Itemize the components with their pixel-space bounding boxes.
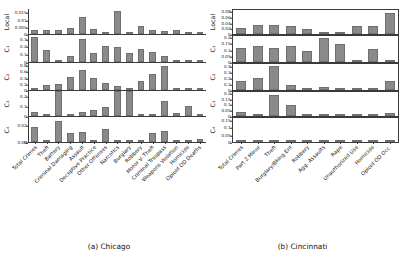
plot-area-achicago-1	[28, 35, 206, 63]
bar	[55, 30, 62, 34]
bar	[236, 112, 246, 116]
bar	[335, 32, 345, 34]
bar-slot	[171, 35, 183, 62]
y-axis-label-bcincinnati-2: C₂	[206, 63, 217, 91]
bar-group	[233, 92, 398, 116]
bar-slot	[266, 92, 283, 116]
y-axis-label-text: C₁	[208, 45, 215, 52]
subplot-achicago-Local: Local00.0050.010.015	[0, 9, 206, 35]
y-axis-label-achicago-3: C₃	[0, 91, 11, 117]
bar-slot	[250, 118, 267, 142]
bar	[55, 91, 62, 116]
y-axis-label-bcincinnati-4: C₄	[206, 117, 217, 143]
bar-group	[29, 117, 206, 142]
bar-slot	[64, 117, 76, 142]
bar	[102, 46, 109, 62]
bar	[79, 17, 86, 34]
bar-slot	[88, 35, 100, 62]
y-tick-labels-bcincinnati-3: 00.050.10.150.2	[217, 91, 232, 117]
y-tick-labels-achicago-4: 00.000.02	[11, 117, 28, 143]
bar-slot	[147, 117, 159, 142]
bar-slot	[382, 92, 399, 116]
bar	[319, 87, 329, 90]
bar-slot	[283, 10, 300, 34]
y-tick-label: 0.05	[221, 109, 230, 113]
bar	[352, 26, 362, 34]
bar-slot	[100, 35, 112, 62]
bar	[319, 38, 329, 62]
bar-slot	[349, 118, 366, 142]
bar-slot	[233, 118, 250, 142]
bar	[55, 60, 62, 62]
bar-slot	[100, 91, 112, 116]
bar	[185, 88, 192, 90]
bar-slot	[123, 117, 135, 142]
bar-slot	[41, 91, 53, 116]
category-label-text: Total Crimes	[11, 144, 38, 171]
bar-slot	[53, 63, 65, 90]
bar-slot	[365, 64, 382, 90]
bar	[335, 114, 345, 116]
bar-slot	[135, 63, 147, 90]
bar	[302, 29, 312, 34]
bar-slot	[76, 9, 88, 34]
bar-slot	[182, 91, 194, 116]
plot-area-achicago-3	[28, 91, 206, 117]
bar-slot	[76, 117, 88, 142]
bar	[67, 28, 74, 34]
bar-slot	[171, 63, 183, 90]
bar-slot	[100, 117, 112, 142]
y-axis-label-achicago-1: C₁	[0, 35, 11, 63]
bar	[286, 46, 296, 62]
bar-group	[233, 36, 398, 62]
bar-slot	[266, 10, 283, 34]
bar-slot	[135, 9, 147, 34]
bar	[102, 107, 109, 116]
bar-slot	[182, 117, 194, 142]
bar	[67, 133, 74, 142]
bar	[114, 47, 121, 62]
bar-slot	[112, 63, 124, 90]
bar-group	[29, 63, 206, 90]
bar-slot	[266, 118, 283, 142]
bar	[253, 114, 263, 116]
bar-slot	[41, 117, 53, 142]
bar-slot	[100, 63, 112, 90]
bar	[185, 106, 192, 116]
bar	[114, 91, 121, 116]
y-axis-label-text: C₄	[2, 126, 9, 133]
bar-slot	[159, 63, 171, 90]
bar	[197, 32, 204, 34]
bar-slot	[332, 10, 349, 34]
bar	[302, 51, 312, 62]
bar-slot	[250, 64, 267, 90]
bar-slot	[349, 36, 366, 62]
bar-slot	[182, 63, 194, 90]
bar	[126, 32, 133, 34]
bar-slot	[316, 64, 333, 90]
y-tick-label: 0.15	[221, 42, 230, 46]
bar	[197, 60, 204, 62]
subplot-bcincinnati-C: C₃00.050.10.150.2	[206, 91, 399, 117]
subplot-achicago-C: C₄00.000.02	[0, 117, 206, 143]
x-axis-category-labels-bcincinnati: Total CrimesPart 2 MinorTheftBurglary/Bk…	[206, 143, 399, 201]
bar-slot	[53, 35, 65, 62]
bar	[67, 114, 74, 116]
bar	[102, 129, 109, 142]
bar-slot	[76, 63, 88, 90]
y-tick-label: 0.015	[15, 11, 27, 15]
y-tick-labels-bcincinnati-0: 00.020.040.060.08	[217, 9, 232, 35]
bar	[269, 48, 279, 62]
bar-slot	[64, 63, 76, 90]
bar-group	[233, 10, 398, 34]
bar-slot	[41, 9, 53, 34]
bar	[126, 88, 133, 90]
bar-slot	[76, 91, 88, 116]
bar	[173, 113, 180, 116]
bar	[149, 114, 156, 116]
bar	[79, 132, 86, 142]
bar-slot	[41, 35, 53, 62]
bar-slot	[299, 118, 316, 142]
bar-slot	[29, 63, 41, 90]
bar-slot	[159, 117, 171, 142]
